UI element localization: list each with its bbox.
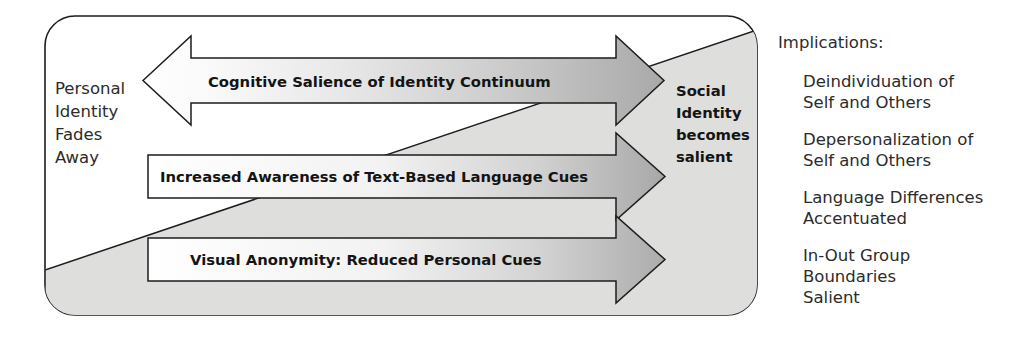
implication-4-line-1: In-Out Group <box>803 246 910 265</box>
implication-4-line-3: Salient <box>803 288 860 307</box>
personal-identity-line-1: Personal <box>55 79 125 98</box>
implications-heading: Implications: <box>778 33 884 52</box>
personal-identity-line-3: Fades <box>55 125 102 144</box>
social-identity-line-4: salient <box>676 148 733 165</box>
implication-3-line-1: Language Differences <box>803 188 983 207</box>
diagram-canvas: Cognitive Salience of Identity Continuum… <box>0 0 1032 339</box>
personal-identity-line-2: Identity <box>55 102 118 121</box>
sider-model-diagram: Cognitive Salience of Identity Continuum… <box>0 0 1032 339</box>
implication-item-depersonalization: Depersonalization of Self and Others <box>803 130 974 170</box>
implication-1-line-1: Deindividuation of <box>803 72 955 91</box>
implication-item-in-out-group: In-Out Group Boundaries Salient <box>803 246 910 307</box>
social-identity-line-3: becomes <box>676 126 750 143</box>
implication-4-line-2: Boundaries <box>803 267 896 286</box>
implications-panel: Implications: Deindividuation of Self an… <box>778 33 983 307</box>
implication-2-line-1: Depersonalization of <box>803 130 974 149</box>
implication-1-line-2: Self and Others <box>803 93 931 112</box>
social-identity-line-2: Identity <box>676 104 742 121</box>
implication-2-line-2: Self and Others <box>803 151 931 170</box>
visual-anonymity-arrow-label: Visual Anonymity: Reduced Personal Cues <box>190 251 542 268</box>
implication-item-deindividuation: Deindividuation of Self and Others <box>803 72 955 112</box>
increased-awareness-arrow-label: Increased Awareness of Text-Based Langua… <box>160 168 588 185</box>
social-identity-line-1: Social <box>676 82 726 99</box>
implication-3-line-2: Accentuated <box>803 209 907 228</box>
personal-identity-line-4: Away <box>55 148 99 167</box>
cognitive-salience-arrow-label: Cognitive Salience of Identity Continuum <box>208 73 551 90</box>
implication-item-language-differences: Language Differences Accentuated <box>803 188 983 228</box>
